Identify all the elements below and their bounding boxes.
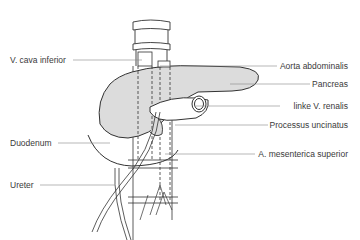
label-linke-v-renalis: linke V. renalis: [294, 101, 349, 111]
label-processus-uncinatus: Processus uncinatus: [270, 120, 348, 130]
label-a-mesenterica-superior: A. mesenterica superior: [258, 149, 348, 159]
label-ureter: Ureter: [10, 180, 34, 190]
label-vena-cava-inferior: V. cava inferior: [10, 55, 66, 65]
lower-vessels: [140, 185, 172, 220]
ureter: [115, 168, 131, 240]
label-aorta-abdominalis: Aorta abdominalis: [280, 61, 348, 71]
label-duodenum: Duodenum: [10, 138, 52, 148]
label-pancreas: Pancreas: [312, 79, 348, 89]
